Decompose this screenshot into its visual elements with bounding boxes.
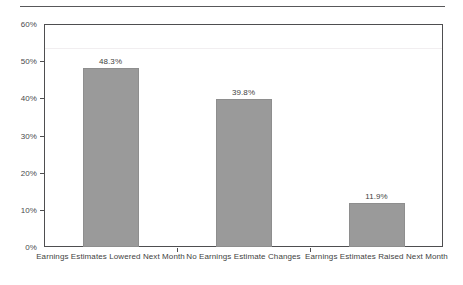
bars-layer: 48.3%39.8%11.9% — [44, 24, 443, 247]
header-divider — [20, 6, 445, 7]
bar-value-label: 39.8% — [232, 88, 255, 97]
x-axis-labels: Earnings Estimates Lowered Next MonthNo … — [44, 252, 443, 268]
y-axis-tick-label: 40% — [21, 93, 37, 104]
x-axis-category-label: No Earnings Estimate Changes — [186, 252, 300, 261]
bar-value-label: 11.9% — [365, 192, 388, 201]
x-axis-category-label: Earnings Estimates Lowered Next Month — [36, 252, 185, 261]
x-axis-category-label: Earnings Estimates Raised Next Month — [305, 252, 448, 261]
y-axis-tick-label: 60% — [21, 19, 37, 30]
bar-value-label: 48.3% — [99, 57, 122, 66]
x-axis-tick-mark — [177, 248, 178, 252]
y-axis-tick-label: 30% — [21, 131, 37, 142]
y-axis-tick-label: 20% — [21, 168, 37, 179]
y-axis: 0%10%20%30%40%50%60% — [0, 0, 44, 285]
y-axis-tick-label: 50% — [21, 56, 37, 67]
bar[interactable]: 11.9% — [349, 203, 405, 247]
y-axis-tick-label: 10% — [21, 205, 37, 216]
bar[interactable]: 48.3% — [83, 68, 139, 248]
bar-chart-figure: 0%10%20%30%40%50%60% 48.3%39.8%11.9% Ear… — [0, 0, 463, 285]
bar[interactable]: 39.8% — [216, 99, 272, 247]
